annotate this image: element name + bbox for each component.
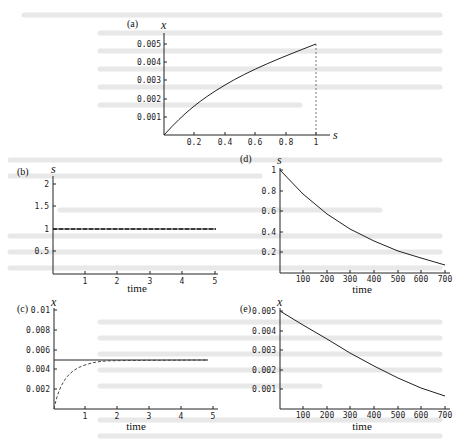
svg-text:600: 600 bbox=[414, 411, 429, 420]
svg-text:1.5: 1.5 bbox=[35, 202, 50, 211]
svg-text:700: 700 bbox=[438, 411, 453, 420]
chart-c: (c) x 0.002 0.004 0.006 0.008 0.01 1 2 3… bbox=[17, 295, 218, 432]
svg-text:4: 4 bbox=[180, 277, 185, 286]
x-ticks-d: 100 200 300 400 500 600 700 bbox=[296, 270, 453, 284]
svg-text:0.8: 0.8 bbox=[279, 138, 294, 147]
svg-text:1: 1 bbox=[83, 277, 88, 286]
y-ticks-c: 0.002 0.004 0.006 0.008 0.01 bbox=[26, 306, 57, 394]
curve-x-vs-time bbox=[280, 311, 445, 396]
svg-text:1: 1 bbox=[83, 412, 88, 421]
svg-text:700: 700 bbox=[438, 275, 453, 284]
svg-text:200: 200 bbox=[320, 275, 335, 284]
y-axis-label-a: x bbox=[160, 18, 167, 32]
svg-text:2: 2 bbox=[115, 412, 120, 421]
svg-text:0.008: 0.008 bbox=[26, 326, 50, 335]
panel-label-d: (d) bbox=[240, 153, 252, 165]
y-axis-label-b: s bbox=[51, 162, 56, 176]
svg-text:0.004: 0.004 bbox=[252, 327, 276, 336]
y-axis-label-c: x bbox=[50, 295, 57, 309]
svg-text:0.4: 0.4 bbox=[262, 228, 277, 237]
svg-text:0.003: 0.003 bbox=[137, 76, 161, 85]
chart-d: (d) s 0.2 0.4 0.6 0.8 1 100 200 300 400 … bbox=[240, 153, 452, 295]
panel-label-b: (b) bbox=[17, 166, 29, 178]
svg-text:2: 2 bbox=[115, 277, 120, 286]
svg-text:1: 1 bbox=[271, 166, 276, 175]
y-axis-label-e: x bbox=[276, 295, 283, 309]
svg-text:4: 4 bbox=[179, 412, 184, 421]
x-ticks-b: 1 2 3 4 5 bbox=[83, 271, 218, 286]
svg-text:3: 3 bbox=[147, 412, 152, 421]
svg-text:400: 400 bbox=[367, 411, 382, 420]
svg-text:100: 100 bbox=[296, 411, 311, 420]
x-ticks-a: 0.2 0.4 0.6 0.8 1 bbox=[187, 132, 319, 147]
dashed-curve-c bbox=[54, 360, 208, 409]
svg-text:0.002: 0.002 bbox=[26, 385, 50, 394]
svg-text:0.004: 0.004 bbox=[137, 58, 161, 67]
x-ticks-e: 100 200 300 400 500 600 700 bbox=[296, 406, 453, 420]
y-axis-label-d: s bbox=[277, 153, 282, 167]
svg-text:0.004: 0.004 bbox=[26, 365, 50, 374]
x-axis-label-e: time bbox=[352, 420, 372, 432]
svg-text:0.005: 0.005 bbox=[137, 40, 161, 49]
svg-text:5: 5 bbox=[211, 412, 216, 421]
svg-text:3: 3 bbox=[148, 277, 153, 286]
svg-text:0.4: 0.4 bbox=[218, 138, 233, 147]
svg-text:0.8: 0.8 bbox=[262, 187, 277, 196]
x-axis-label-c: time bbox=[126, 420, 146, 432]
svg-text:0.2: 0.2 bbox=[262, 248, 277, 257]
svg-text:0.001: 0.001 bbox=[137, 113, 161, 122]
x-axis-label-a: s bbox=[333, 128, 338, 142]
svg-text:5: 5 bbox=[213, 277, 218, 286]
panel-label-c: (c) bbox=[17, 303, 28, 315]
chart-a: (a) x s 0.001 0.002 0.003 0.004 0.005 0.… bbox=[127, 18, 338, 147]
curve-x-vs-s bbox=[164, 44, 316, 135]
panel-label-e: (e) bbox=[240, 303, 251, 315]
svg-text:0.006: 0.006 bbox=[26, 346, 50, 355]
y-ticks-e: 0.001 0.002 0.003 0.004 0.005 bbox=[252, 307, 283, 394]
svg-text:600: 600 bbox=[414, 275, 429, 284]
svg-text:0.002: 0.002 bbox=[252, 366, 276, 375]
x-axis-label-b: time bbox=[127, 282, 147, 294]
panel-label-a: (a) bbox=[127, 18, 138, 30]
svg-text:200: 200 bbox=[320, 411, 335, 420]
chart-e: (e) x 0.001 0.002 0.003 0.004 0.005 100 … bbox=[240, 295, 452, 432]
svg-text:0.003: 0.003 bbox=[252, 346, 276, 355]
y-ticks-a: 0.001 0.002 0.003 0.004 0.005 bbox=[137, 40, 167, 122]
svg-text:500: 500 bbox=[391, 275, 406, 284]
chart-b: (b) s 0.5 1 1.5 2 1 2 3 4 5 time bbox=[17, 162, 218, 294]
x-axis-label-d: time bbox=[352, 283, 372, 295]
svg-text:0.6: 0.6 bbox=[248, 138, 263, 147]
svg-text:1: 1 bbox=[314, 138, 319, 147]
svg-text:300: 300 bbox=[343, 411, 358, 420]
curve-s-vs-time bbox=[280, 170, 445, 265]
svg-text:0.002: 0.002 bbox=[137, 95, 161, 104]
svg-text:0.2: 0.2 bbox=[187, 138, 202, 147]
x-ticks-c: 1 2 3 4 5 bbox=[83, 406, 216, 421]
svg-text:0.01: 0.01 bbox=[31, 306, 50, 315]
svg-text:0.001: 0.001 bbox=[252, 385, 276, 394]
svg-text:100: 100 bbox=[296, 275, 311, 284]
svg-text:0.005: 0.005 bbox=[252, 307, 276, 316]
svg-text:1: 1 bbox=[44, 225, 49, 234]
svg-text:500: 500 bbox=[391, 411, 406, 420]
svg-text:0.6: 0.6 bbox=[262, 207, 277, 216]
svg-text:0.5: 0.5 bbox=[35, 247, 50, 256]
svg-text:2: 2 bbox=[44, 180, 49, 189]
